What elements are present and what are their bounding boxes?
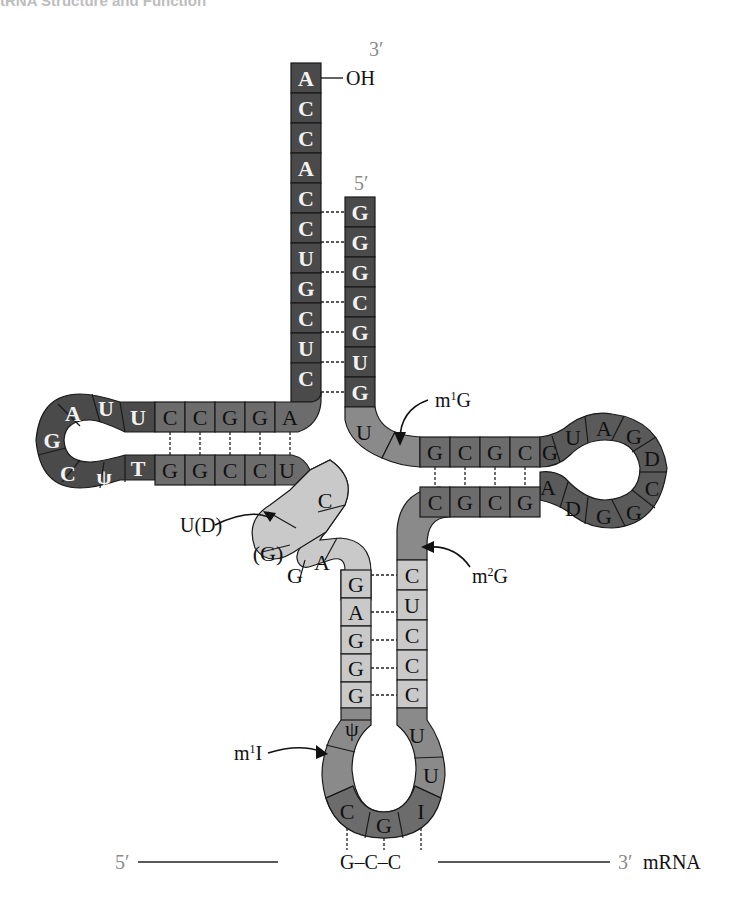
nucleotide: G <box>348 683 364 708</box>
annotation-m2g: m2G <box>421 541 508 587</box>
nucleotide: G <box>351 200 368 225</box>
mrna-strand: 5′ G–C–C 3′ mRNA <box>115 851 701 873</box>
nucleotide: G <box>252 405 268 430</box>
nucleotide: C <box>405 623 420 648</box>
nucleotide: G <box>348 628 364 653</box>
nucleotide: G <box>222 405 238 430</box>
mrna-label: mRNA <box>643 851 701 873</box>
nucleotide: A <box>540 475 556 500</box>
nucleotide: D <box>644 446 660 471</box>
nucleotide: T <box>131 456 146 481</box>
nucleotide: C <box>352 290 368 315</box>
nucleotide: U <box>409 723 425 748</box>
acceptor-stem-5prime-strand: G G G C G U G <box>345 197 375 407</box>
mrna-3prime-label: 3′ <box>618 851 632 873</box>
nucleotide: G <box>348 572 364 597</box>
three-prime-label: 3′ <box>369 38 383 60</box>
anticodon-nucleotide: I <box>417 799 424 824</box>
nucleotide: G <box>351 230 368 255</box>
nucleotide: G <box>287 563 303 588</box>
nucleotide: C <box>405 682 420 707</box>
nucleotide: C <box>60 461 76 486</box>
nucleotide: G <box>517 490 533 515</box>
nucleotide: C <box>488 490 503 515</box>
nucleotide: C <box>298 126 314 151</box>
five-prime-label: 5′ <box>354 172 368 194</box>
nucleotide: C <box>318 488 333 513</box>
anticodon-arm: G A G G G C U C C C ψ C G I U <box>322 560 445 838</box>
nucleotide: A <box>282 405 298 430</box>
nucleotide: U <box>404 593 420 618</box>
nucleotide: C <box>193 405 208 430</box>
nucleotide: C <box>298 216 314 241</box>
nucleotide: G <box>487 440 503 465</box>
nucleotide: (G) <box>253 541 284 566</box>
nucleotide: G <box>427 440 443 465</box>
nucleotide: G <box>348 656 364 681</box>
m1g-label: m1G <box>435 389 471 411</box>
m1i-label: m1I <box>234 742 262 764</box>
nucleotide: C <box>405 563 420 588</box>
nucleotide: G <box>626 424 642 449</box>
nucleotide: U <box>98 396 114 421</box>
nucleotide: C <box>223 458 238 483</box>
nucleotide: U <box>423 763 439 788</box>
nucleotide: A <box>65 401 81 426</box>
nucleotide: U <box>356 420 372 445</box>
nucleotide: G <box>43 428 60 453</box>
nucleotide: U <box>565 425 581 450</box>
nucleotide: U <box>279 458 295 483</box>
anticodon-nucleotide: C <box>340 799 355 824</box>
nucleotide: G <box>596 504 612 529</box>
tpsic-arm: U U A G C ψ T C C G G A G G C C U <box>36 392 321 489</box>
m2g-label: m2G <box>472 565 508 587</box>
anticodon-nucleotide: G <box>376 813 392 838</box>
nucleotide: C <box>298 96 314 121</box>
nucleotide: G <box>162 458 178 483</box>
nucleotide: ψ <box>96 464 111 489</box>
nucleotide: U <box>298 246 314 271</box>
nucleotide: G <box>351 260 368 285</box>
annotation-m1i: m1I <box>234 742 328 764</box>
nucleotide: C <box>645 476 660 501</box>
nucleotide: G <box>351 380 368 405</box>
nucleotide: A <box>298 156 314 181</box>
nucleotide: U <box>298 336 314 361</box>
nucleotide: C <box>298 366 314 391</box>
ud-label: U(D) <box>180 514 222 537</box>
acceptor-stem-base-pairs <box>321 212 345 392</box>
nucleotide: C <box>298 186 314 211</box>
nucleotide: C <box>253 458 268 483</box>
nucleotide: C <box>405 653 420 678</box>
nucleotide: C <box>518 440 533 465</box>
mrna-5prime-label: 5′ <box>115 851 129 873</box>
trna-cloverleaf-diagram: A C C A C C U G C U C 3′ OH 5′ G G G C G… <box>0 0 750 900</box>
nucleotide: A <box>298 66 314 91</box>
nucleotide: A <box>314 550 330 575</box>
nucleotide: C <box>458 440 473 465</box>
d-arm: U G C G C G U A G D C G G D A <box>345 407 667 560</box>
nucleotide: C <box>428 490 443 515</box>
nucleotide: G <box>192 458 208 483</box>
nucleotide: U <box>352 350 368 375</box>
nucleotide: C <box>163 405 178 430</box>
nucleotide: D <box>565 496 581 521</box>
nucleotide: U <box>130 405 146 430</box>
nucleotide: G <box>626 500 642 525</box>
nucleotide: C <box>298 306 314 331</box>
nucleotide: A <box>596 416 612 441</box>
acceptor-stem-3prime-strand: A C C A C C U G C U C <box>291 63 321 402</box>
nucleotide: G <box>351 320 368 345</box>
nucleotide: G <box>542 440 558 465</box>
nucleotide: A <box>348 600 364 625</box>
nucleotide: G <box>457 490 473 515</box>
nucleotide: ψ <box>345 716 359 741</box>
nucleotide: G <box>297 276 314 301</box>
mrna-codon: G–C–C <box>340 851 401 873</box>
oh-label: OH <box>346 67 375 89</box>
